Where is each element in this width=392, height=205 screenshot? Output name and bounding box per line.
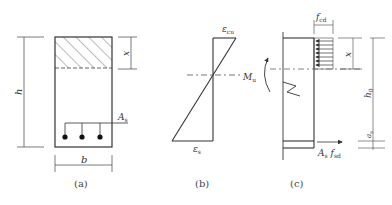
as-cover-label: as [365, 131, 374, 138]
epsilon-s-label: εs [193, 144, 201, 155]
cx-label: x [343, 52, 353, 57]
moment-arrow [264, 58, 270, 92]
x-label: x [121, 51, 131, 56]
break-symbol [283, 82, 300, 96]
rebar-3 [97, 134, 102, 139]
panel-a-cross-section: h x As b (a) [13, 37, 137, 189]
panel-b-strain: εcu εs (b) [172, 24, 240, 189]
caption-a: (a) [74, 178, 88, 189]
compression-zone-hatch [55, 37, 112, 68]
stress-block [314, 38, 333, 69]
caption-c: (c) [290, 178, 304, 189]
strain-profile-line [172, 38, 236, 141]
h-label: h [13, 89, 24, 95]
caption-b: (b) [195, 178, 209, 189]
rc-flexure-diagram: h x As b (a) εcu εs (b) [0, 0, 392, 205]
rebar-2 [79, 134, 84, 139]
fcd-label: fcd [315, 12, 327, 23]
rebar-1 [62, 134, 67, 139]
stress-arrows [316, 41, 333, 65]
as-label: As [117, 112, 128, 123]
as-fsd-label: Asfsd [317, 148, 341, 159]
panel-c-stress: fcd Mu Asfsd x h0 as (c) [242, 12, 385, 189]
mu-label: Mu [242, 72, 256, 83]
h0-label: h0 [363, 88, 374, 98]
epsilon-cu-label: εcu [222, 24, 234, 35]
b-label: b [81, 154, 87, 165]
